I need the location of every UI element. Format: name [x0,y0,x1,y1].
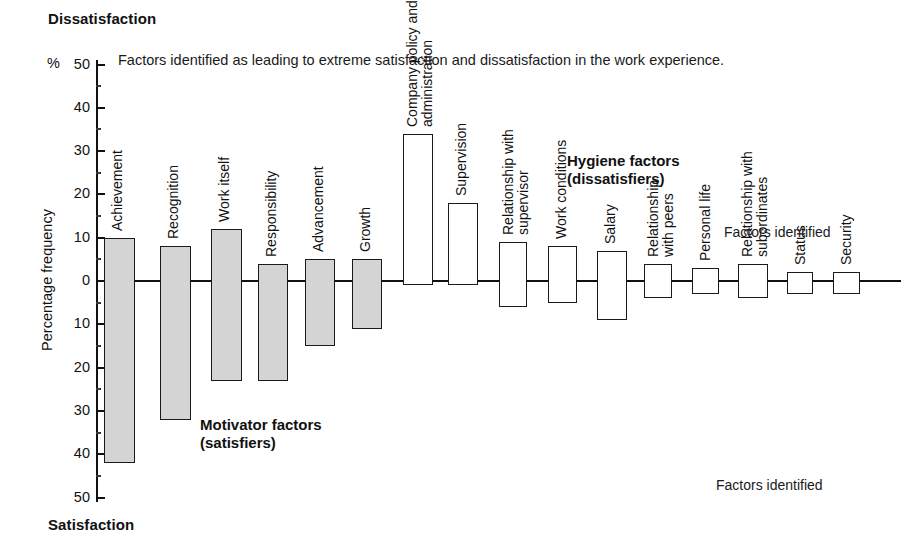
y-axis-tick-label: 40 [50,100,90,115]
bar-achievement [104,238,135,463]
bar-company-policy-and-administration [403,134,433,286]
bar-label-responsibility: Responsibility [264,170,279,256]
dissatisfaction-pole-label: Dissatisfaction [48,10,156,27]
hygiene-factors-annotation: Hygiene factors (dissatisfiers) [567,152,680,188]
bar-label-personal-life: Personal life [698,184,713,261]
y-axis-tick-label: 10 [50,316,90,331]
bar-label-company-policy-and-administration: Company policy and administration [405,0,435,127]
bar-label-relationship-with-subordinates: Relationship with subordinates [740,151,770,257]
y-axis-minor-tick [96,85,101,87]
bar-label-security: Security [839,215,854,266]
y-axis-tick-label: 30 [50,403,90,418]
bar-advancement [305,259,335,346]
y-axis-tick-label: 50 [50,490,90,505]
y-axis-tick-label: 40 [50,446,90,461]
bar-label-work-itself: Work itself [217,157,232,222]
y-axis-minor-tick [96,475,101,477]
motivator-factors-annotation: Motivator factors (satisfiers) [200,416,322,452]
y-axis-minor-tick [96,302,101,304]
bar-responsibility [258,264,288,381]
bar-supervision [448,203,478,285]
y-axis-minor-tick [96,432,101,434]
y-axis-minor-tick [96,215,101,217]
factors-identified-bottom-annotation: Factors identified [716,477,823,493]
y-axis-tick [96,193,105,195]
y-axis-tick-label: 30 [50,143,90,158]
y-axis-tick-label: 0 [50,273,90,288]
bar-label-growth: Growth [358,207,373,252]
y-axis-tick [96,64,105,66]
y-axis-tick-label: 20 [50,186,90,201]
y-axis-tick [96,150,105,152]
bar-relationship-with-subordinates [738,264,768,299]
bar-label-salary: Salary [603,204,618,244]
y-axis-tick-label: 20 [50,360,90,375]
y-axis-minor-tick [96,345,101,347]
bar-work-conditions [548,246,577,302]
bar-security [833,272,860,294]
bar-label-relationship-with-peers: Relationship with peers [646,180,676,257]
bar-label-achievement: Achievement [110,150,125,231]
y-axis-tick [96,107,105,109]
y-axis-tick-label: 50 [50,57,90,72]
bar-label-advancement: Advancement [311,167,326,253]
y-axis-tick-label: 10 [50,230,90,245]
y-axis-minor-tick [96,128,101,130]
bar-personal-life [692,268,719,294]
bar-recognition [160,246,191,419]
bar-label-relationship-with-supervisor: Relationship with supervisor [501,129,531,235]
herzberg-two-factor-chart: Dissatisfaction Factors identified as le… [0,0,911,555]
bar-growth [352,259,382,328]
bar-label-supervision: Supervision [454,123,469,196]
y-axis-minor-tick [96,258,101,260]
y-axis-tick [96,497,105,499]
bar-salary [597,251,627,320]
bar-relationship-with-supervisor [499,242,527,307]
bar-work-itself [211,229,242,381]
bar-status [787,272,813,294]
bar-label-recognition: Recognition [166,165,181,239]
factors-identified-top-annotation: Factors identified [724,224,831,240]
y-axis-minor-tick [96,172,101,174]
y-axis-minor-tick [96,388,101,390]
satisfaction-pole-label: Satisfaction [48,516,134,533]
bar-relationship-with-peers [644,264,672,299]
